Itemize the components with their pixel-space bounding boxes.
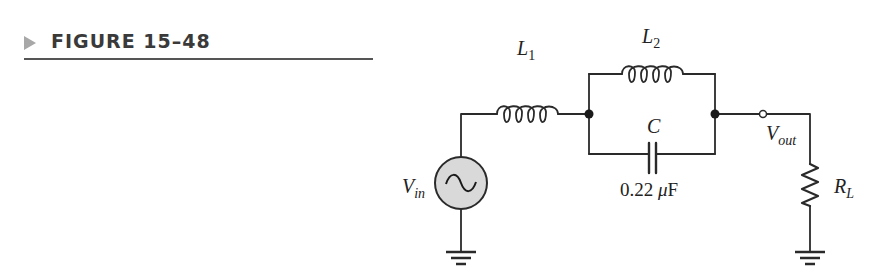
label-capacitor-value: 0.22 μF <box>620 179 678 200</box>
label-rl: RL <box>833 175 854 201</box>
inductor-l2-icon <box>622 66 683 82</box>
junction-node-left <box>585 110 594 119</box>
ground-source-icon <box>446 252 476 264</box>
inductor-l1-icon <box>497 106 558 122</box>
capacitor-icon <box>649 143 656 173</box>
circuit-diagram: L1 L2 C 0.22 μF Vin Vout RL <box>0 0 894 272</box>
junction-node-right <box>711 110 720 119</box>
vout-terminal-icon <box>760 111 767 118</box>
label-l1: L1 <box>516 37 535 63</box>
ground-load-icon <box>795 252 825 264</box>
ac-source-icon <box>435 157 487 209</box>
label-vin: Vin <box>402 175 425 201</box>
wire-source-to-l1 <box>461 114 497 157</box>
label-vout: Vout <box>766 122 797 148</box>
label-c: C <box>647 115 661 137</box>
label-l2: L2 <box>641 25 660 51</box>
resistor-rl-icon <box>802 164 818 206</box>
